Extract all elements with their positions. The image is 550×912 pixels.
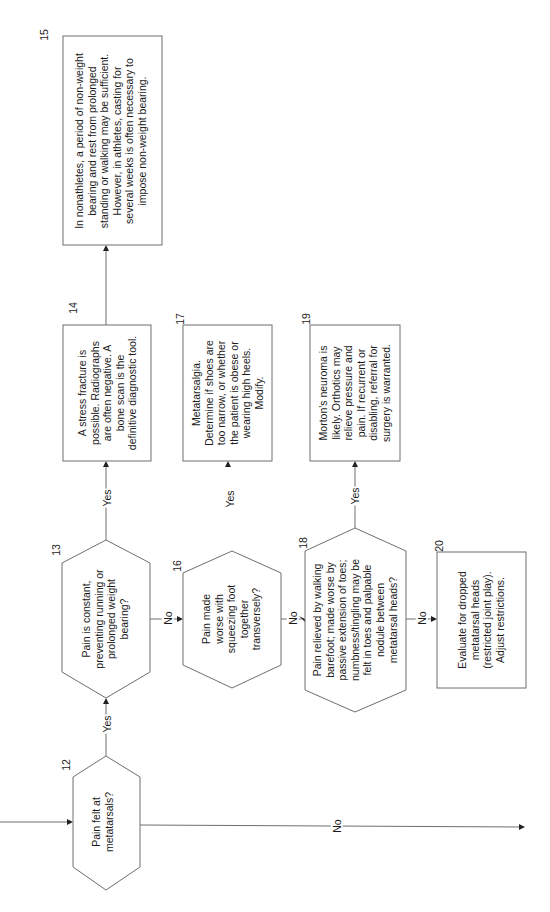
node-16-text: Pain made worse with squeezing foot toge… bbox=[200, 569, 264, 669]
edge-label-16-18: No bbox=[287, 610, 299, 625]
arrow-head bbox=[103, 461, 109, 467]
node-20-number: 20 bbox=[433, 540, 445, 552]
edge-label-18-19: Yes bbox=[349, 486, 361, 505]
node-14-text: A stress fracture is possible. Radiograp… bbox=[76, 328, 140, 458]
node-12-text: Pain felt at metatarsals? bbox=[90, 762, 122, 882]
arrow-head bbox=[67, 819, 73, 825]
arrow-head bbox=[352, 461, 358, 467]
node-13-text: Pain is constant, preventing running or … bbox=[80, 559, 132, 679]
edge-label-12-no: No bbox=[331, 818, 343, 833]
edge-label-13-14: Yes bbox=[101, 488, 113, 507]
arrow-head bbox=[225, 461, 231, 467]
node-14-number: 14 bbox=[67, 302, 79, 314]
node-15-text: In nonathletes, a period of non-weight b… bbox=[73, 46, 149, 236]
node-18-number: 18 bbox=[297, 537, 309, 549]
node-17-text: Metatarsalgia. Determine if shoes are to… bbox=[190, 328, 266, 458]
node-19-text: Morton's neuroma is likely. Orthotics ma… bbox=[317, 328, 393, 458]
node-17-number: 17 bbox=[174, 313, 186, 325]
node-16-number: 16 bbox=[171, 560, 183, 572]
edge-label-18-20: No bbox=[416, 610, 428, 625]
edge-label-16-17: Yes bbox=[224, 489, 236, 508]
arrow-head bbox=[103, 698, 109, 704]
node-20-text: Evaluate for dropped metatarsal heads (r… bbox=[456, 555, 506, 685]
node-13-number: 13 bbox=[50, 544, 62, 556]
node-12-number: 12 bbox=[60, 759, 72, 771]
arrow-head bbox=[103, 245, 109, 251]
node-19-number: 19 bbox=[300, 313, 312, 325]
edge-label-12-13: Yes bbox=[101, 714, 113, 733]
node-18-text: Pain relieved by walking barefoot; made … bbox=[311, 555, 399, 685]
arrow-head bbox=[431, 616, 437, 622]
arrow-head bbox=[177, 616, 183, 622]
arrow-head bbox=[519, 824, 525, 830]
node-15-number: 15 bbox=[38, 29, 50, 41]
edge-label-13-16: No bbox=[162, 610, 174, 625]
